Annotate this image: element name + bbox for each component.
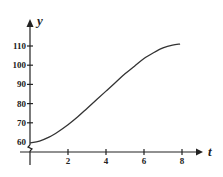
y-tick-label: 100 — [13, 60, 27, 70]
x-axis-arrow — [196, 149, 203, 156]
x-axis-label: t — [208, 144, 212, 159]
series-line-y-t- — [30, 44, 180, 143]
y-axis-label: y — [35, 13, 43, 28]
ticks: 246860708090100110 — [13, 41, 185, 166]
y-tick-label: 80 — [17, 99, 27, 109]
x-tick-label: 6 — [142, 156, 147, 166]
x-tick-label: 2 — [66, 156, 71, 166]
series — [30, 44, 180, 143]
y-axis-arrow — [27, 19, 34, 27]
y-tick-label: 60 — [17, 137, 27, 147]
y-tick-label: 90 — [17, 79, 27, 89]
y-tick-label: 110 — [13, 41, 27, 51]
x-tick-label: 4 — [104, 156, 109, 166]
y-tick-label: 70 — [17, 118, 27, 128]
x-tick-label: 8 — [180, 156, 185, 166]
y-axis-break — [28, 145, 32, 151]
chart: ty 246860708090100110 — [0, 0, 223, 177]
axes: ty — [20, 13, 212, 165]
